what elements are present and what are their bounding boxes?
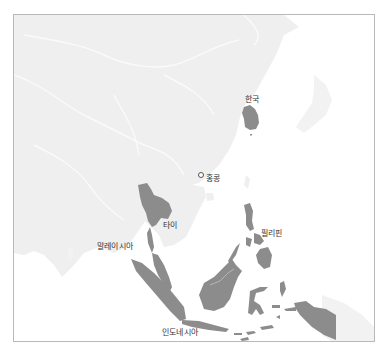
label-malaysia: 말레이시아 [97,243,133,251]
palawan-shape [228,243,240,263]
japan [296,75,332,133]
label-thailand: 타이 [163,222,177,230]
lesser-sunda-shape [234,325,274,341]
asia-map [14,15,375,342]
label-korea: 한국 [245,96,259,104]
korea-shape [242,105,259,130]
map-frame: 한국 홍콩 타이 필리핀 말레이시아 인도네시아 [13,14,375,342]
hongkong-marker-icon [198,172,204,178]
label-indonesia: 인도네시아 [162,329,198,337]
moluccas-shape [272,281,296,319]
jeju-shape [250,134,252,136]
philippines-luzon-shape [244,203,254,231]
taiwan [244,175,250,189]
hainan [206,193,214,201]
label-hongkong: 홍콩 [206,175,220,183]
philippines-mindanao-shape [256,247,272,269]
borneo-shape [199,259,242,311]
sulawesi-shape [248,287,268,315]
label-philippines: 필리핀 [261,230,283,238]
